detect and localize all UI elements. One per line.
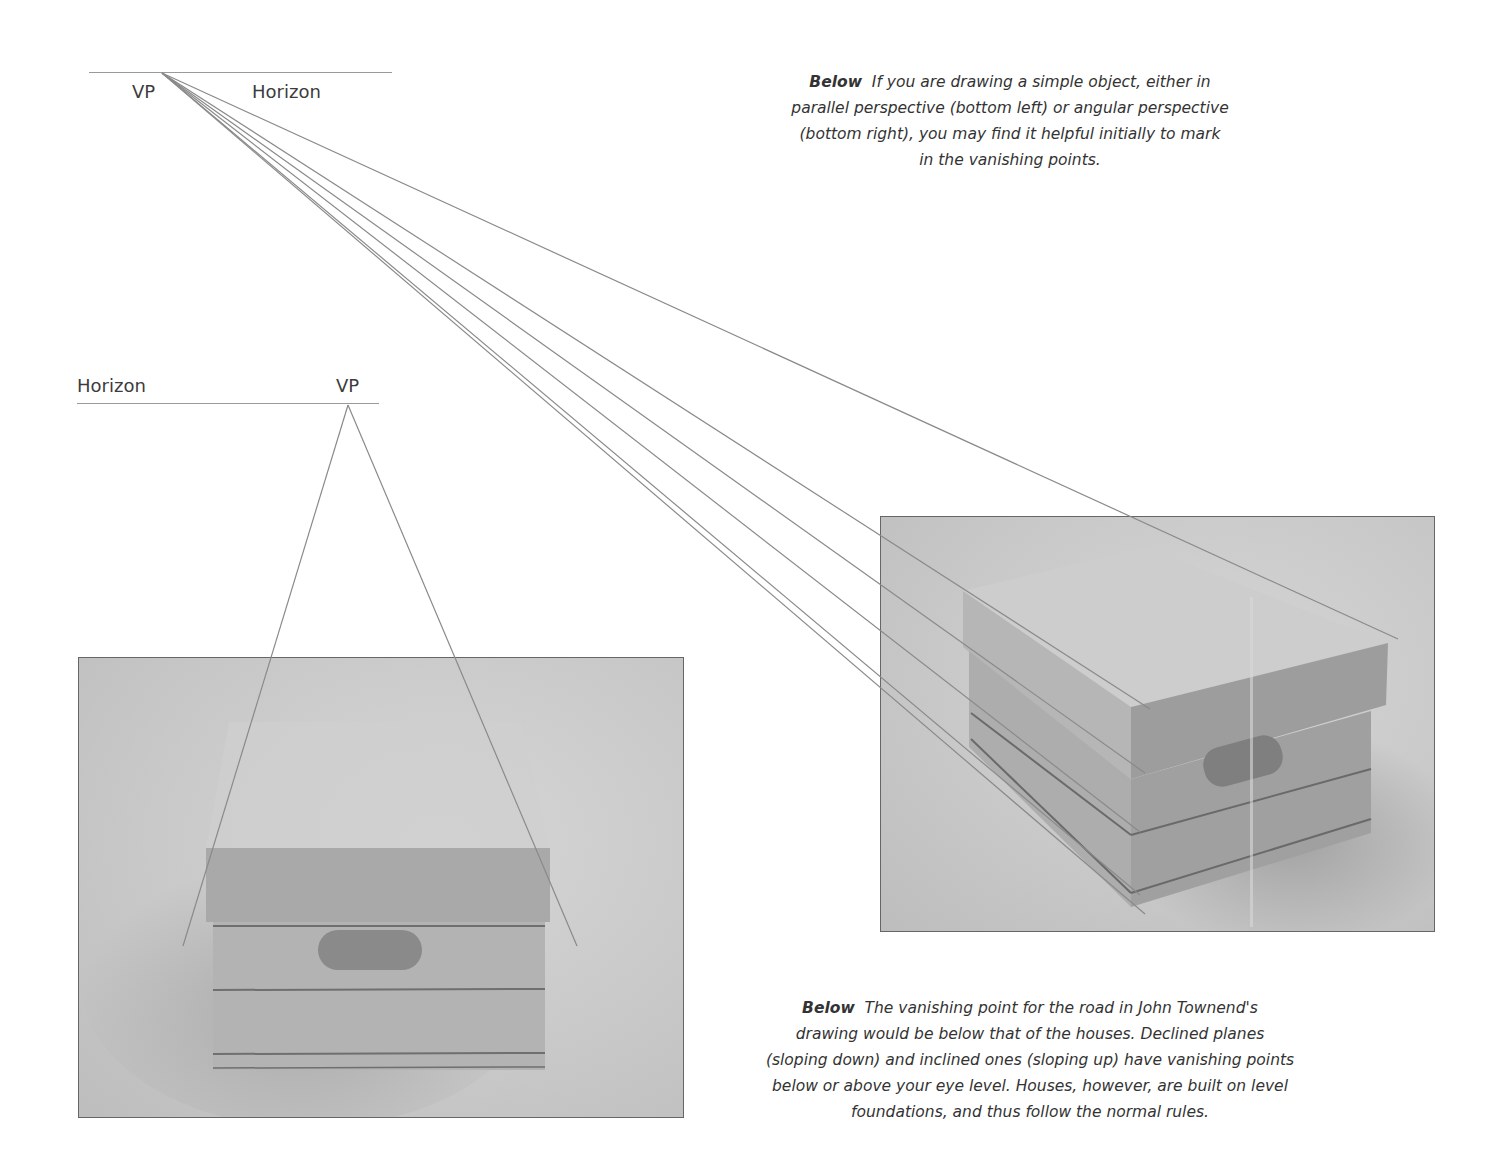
caption-top-lead: Below: [809, 73, 862, 91]
box-angled-illustration: [881, 517, 1434, 931]
top-horizon-line: [89, 72, 392, 73]
caption-bottom-line-5: foundations, and thus follow the normal …: [740, 1099, 1320, 1125]
caption-bottom: Below The vanishing point for the road i…: [740, 995, 1320, 1125]
caption-bottom-lead: Below: [802, 999, 855, 1017]
left-horizon-label: Horizon: [77, 375, 146, 396]
caption-bottom-line-4: below or above your eye level. Houses, h…: [740, 1073, 1320, 1099]
caption-bottom-line-1: The vanishing point for the road in John…: [865, 999, 1258, 1017]
caption-top: Below If you are drawing a simple object…: [770, 69, 1250, 173]
photo-angular-box: [880, 516, 1435, 932]
handle-hole: [318, 930, 422, 970]
photo-parallel-box: [78, 657, 684, 1118]
top-horizon-label: Horizon: [252, 81, 321, 102]
box-front-illustration: [79, 658, 683, 1117]
caption-bottom-line-2: drawing would be below that of the house…: [740, 1021, 1320, 1047]
left-horizon-line: [77, 403, 379, 404]
caption-top-line-4: in the vanishing points.: [770, 147, 1250, 173]
left-vp-label: VP: [336, 375, 359, 396]
caption-top-line-2: parallel perspective (bottom left) or an…: [770, 95, 1250, 121]
caption-top-line-3: (bottom right), you may find it helpful …: [770, 121, 1250, 147]
caption-bottom-line-3: (sloping down) and inclined ones (slopin…: [740, 1047, 1320, 1073]
top-vp-label: VP: [132, 81, 155, 102]
caption-top-line-1: If you are drawing a simple object, eith…: [872, 73, 1211, 91]
